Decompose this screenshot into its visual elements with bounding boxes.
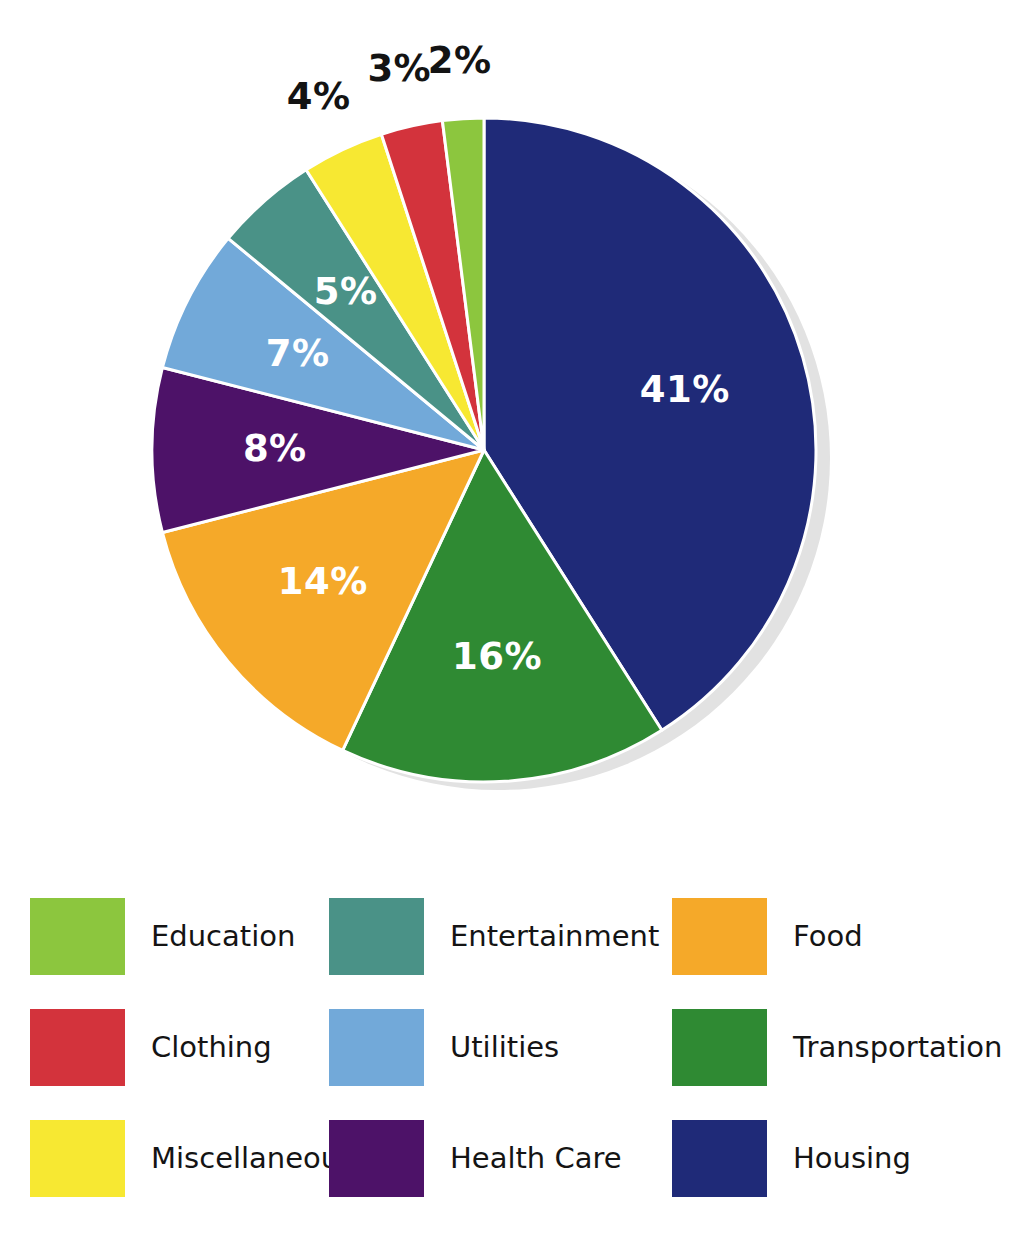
legend-item-label: Clothing xyxy=(151,1033,272,1062)
legend-item-education[interactable]: Education xyxy=(30,898,295,975)
legend-item-label: Miscellaneous xyxy=(151,1144,354,1173)
legend-swatch-icon xyxy=(329,1120,424,1197)
legend-item-utilities[interactable]: Utilities xyxy=(329,1009,559,1086)
legend-swatch-icon xyxy=(672,1120,767,1197)
pie-label-food: 14% xyxy=(278,560,368,603)
legend-swatch-icon xyxy=(329,1009,424,1086)
legend-swatch-icon xyxy=(30,1120,125,1197)
pie-chart-svg: 41%16%14%8%7%5%4%3%2% xyxy=(0,0,1024,850)
legend-swatch-icon xyxy=(30,1009,125,1086)
legend-swatch-icon xyxy=(672,1009,767,1086)
legend-item-label: Utilities xyxy=(450,1033,559,1062)
legend-item-transportation[interactable]: Transportation xyxy=(672,1009,1002,1086)
pie-label-housing: 41% xyxy=(640,368,730,411)
pie-label-utilities: 7% xyxy=(266,332,330,375)
pie-label-transportation: 16% xyxy=(452,635,542,678)
legend-item-health-care[interactable]: Health Care xyxy=(329,1120,622,1197)
legend-swatch-icon xyxy=(30,898,125,975)
pie-chart-figure: 41%16%14%8%7%5%4%3%2% xyxy=(0,0,1024,850)
legend-item-miscellaneous[interactable]: Miscellaneous xyxy=(30,1120,354,1197)
legend-item-clothing[interactable]: Clothing xyxy=(30,1009,272,1086)
legend-item-housing[interactable]: Housing xyxy=(672,1120,911,1197)
pie-label-health-care: 8% xyxy=(243,427,307,470)
pie-label-clothing: 3% xyxy=(367,47,431,90)
legend-item-label: Food xyxy=(793,922,863,951)
legend-swatch-icon xyxy=(672,898,767,975)
legend-item-label: Health Care xyxy=(450,1144,622,1173)
legend-swatch-icon xyxy=(329,898,424,975)
legend-item-entertainment[interactable]: Entertainment xyxy=(329,898,659,975)
pie-label-miscellaneous: 4% xyxy=(287,75,351,118)
legend-item-food[interactable]: Food xyxy=(672,898,863,975)
legend-item-label: Entertainment xyxy=(450,922,659,951)
legend-item-label: Education xyxy=(151,922,295,951)
pie-label-entertainment: 5% xyxy=(314,270,378,313)
legend-item-label: Transportation xyxy=(793,1033,1002,1062)
pie-label-education: 2% xyxy=(428,39,492,82)
legend-item-label: Housing xyxy=(793,1144,911,1173)
